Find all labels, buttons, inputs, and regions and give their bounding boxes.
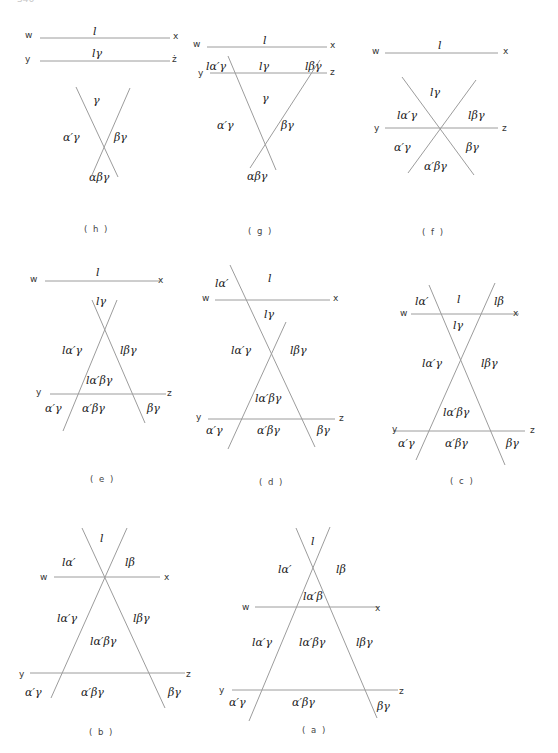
region-label: lα′ — [62, 556, 76, 569]
region-label: α′γ — [398, 437, 415, 450]
point-x: x — [513, 308, 519, 318]
point-x: x — [503, 46, 509, 56]
point-y: y — [36, 387, 42, 397]
region-label: α′γ — [217, 119, 234, 132]
region-label: α′γ — [45, 402, 62, 415]
region-label: lβγ — [305, 60, 322, 73]
region-label: l — [100, 532, 104, 545]
region-label: α′γ — [206, 424, 223, 437]
region-label: α′γ — [229, 696, 246, 709]
point-z: z — [330, 67, 335, 77]
point-y: y — [219, 685, 225, 695]
line-beta — [249, 527, 330, 721]
point-z: z — [186, 669, 191, 679]
region-label: lβγ — [468, 109, 485, 122]
region-label: lα′γ — [206, 60, 226, 73]
region-label: lα′γ — [62, 344, 82, 357]
region-label: lγ — [264, 308, 275, 321]
region-label: αβγ — [247, 170, 268, 183]
region-label: lα′γ — [397, 109, 417, 122]
diagram-c: w x y z lα′ l lβ lγ lα′γ lβγ lα′βγ α′γ α… — [392, 283, 535, 486]
region-label: βγ — [316, 424, 330, 437]
region-label: lβ — [494, 295, 504, 308]
point-x: x — [158, 275, 164, 285]
point-z: z — [399, 686, 404, 696]
region-label: βγ — [113, 131, 127, 144]
point-y: y — [374, 123, 380, 133]
caption-f: ( f ) — [422, 227, 445, 237]
caption-c: ( c ) — [450, 476, 474, 486]
region-label: l — [457, 293, 461, 306]
region-label: α′βγ — [257, 424, 280, 437]
region-label: βγ — [465, 141, 479, 154]
region-label: α′βγ — [292, 696, 315, 709]
region-label: lβγ — [120, 344, 137, 357]
region-label: l — [438, 39, 442, 52]
region-label: lα′ — [215, 277, 229, 290]
point-z: ż — [172, 54, 177, 64]
point-x: x — [173, 31, 179, 41]
region-label: l — [311, 535, 315, 548]
point-z: z — [530, 425, 535, 435]
point-z: z — [502, 123, 507, 133]
point-y: y — [196, 412, 202, 422]
point-w: w — [202, 293, 209, 303]
region-label: αβγ — [89, 171, 110, 184]
figure-panels: w x y ż l lγ γ α′γ βγ αβγ ( h ) w x y z … — [0, 0, 558, 753]
region-label: α′βγ — [82, 402, 105, 415]
point-x: x — [330, 40, 336, 50]
region-label: βγ — [280, 119, 294, 132]
caption-g: ( g ) — [248, 226, 273, 236]
caption-a: ( a ) — [302, 725, 327, 735]
point-w: w — [372, 46, 379, 56]
caption-b: ( b ) — [89, 727, 114, 737]
region-label: lγ — [430, 86, 441, 99]
region-label: l — [93, 25, 97, 38]
region-label: l — [96, 266, 100, 279]
region-label: lα′βγ — [90, 635, 117, 648]
region-label: βγ — [505, 437, 519, 450]
region-label: lβγ — [356, 636, 373, 649]
line-beta — [416, 283, 495, 460]
region-label: lα′βγ — [255, 392, 282, 405]
point-w: w — [400, 308, 407, 318]
region-label: l — [268, 272, 272, 285]
point-w: w — [242, 602, 249, 612]
region-label: α′βγ — [81, 686, 104, 699]
caption-e: ( e ) — [90, 474, 115, 484]
diagram-f: w x y z l lγ lα′γ lβγ α′γ βγ α′βγ ( f ) — [372, 39, 509, 237]
diagram-e: w x y z l lγ lα′γ lβγ lα′βγ α′γ α′βγ βγ … — [30, 266, 172, 484]
region-label: lα′βγ — [299, 636, 326, 649]
region-label: βγ — [376, 700, 390, 713]
diagram-b: w x y z l lα′ lβ lα′γ lβγ lα′βγ α′γ α′βγ… — [19, 528, 191, 737]
region-label: lα′β — [303, 590, 323, 603]
region-label: lβγ — [133, 612, 150, 625]
region-label: γ — [93, 94, 100, 107]
region-label: lα′βγ — [86, 374, 113, 387]
region-label: l — [263, 34, 267, 47]
diagram-g: w x y z l lα′γ lγ lβγ γ α′γ βγ αβγ ( g ) — [193, 34, 336, 236]
point-w: w — [25, 30, 32, 40]
point-x: x — [375, 603, 381, 613]
point-z: z — [167, 388, 172, 398]
diagram-h: w x y ż l lγ γ α′γ βγ αβγ ( h ) — [25, 25, 179, 234]
region-label: lγ — [96, 295, 107, 308]
region-label: lβγ — [481, 357, 498, 370]
caption-h: ( h ) — [84, 224, 109, 234]
region-label: lγ — [453, 319, 464, 332]
region-label: lα′ — [415, 295, 429, 308]
point-w: w — [40, 572, 47, 582]
region-label: lα′γ — [422, 357, 442, 370]
point-z: z — [339, 413, 344, 423]
region-label: βγ — [146, 402, 160, 415]
region-label: lβ — [125, 556, 135, 569]
diagram-d: w x y z lα′ l lγ lα′γ lβγ lα′βγ α′γ α′βγ… — [196, 265, 344, 487]
region-label: lβγ — [290, 344, 307, 357]
point-x: x — [333, 293, 339, 303]
point-y: y — [19, 669, 25, 679]
region-label: βγ — [167, 686, 181, 699]
region-label: α′γ — [63, 131, 80, 144]
region-label: α′γ — [25, 686, 42, 699]
region-label: α′βγ — [424, 160, 447, 173]
region-label: lα′βγ — [443, 406, 470, 419]
